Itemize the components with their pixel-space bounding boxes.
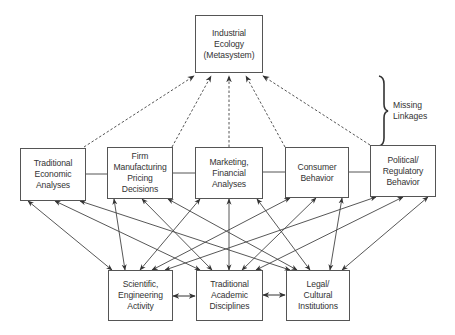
middle-bottom-arrows xyxy=(28,197,428,270)
node-traditional-economic-analyses: Traditional Economic Analyses xyxy=(20,148,86,201)
node-firm-manufacturing-pricing: Firm Manufacturing Pricing Decisions xyxy=(107,147,173,199)
node-industrial-ecology: Industrial Ecology (Metasystem) xyxy=(195,15,263,73)
node-consumer-behavior: Consumer Behavior xyxy=(285,147,349,198)
missing-linkages-label: Missing Linkages xyxy=(393,100,427,122)
node-marketing-financial-analyses: Marketing, Financial Analyses xyxy=(195,147,263,199)
brace-icon xyxy=(379,76,388,146)
node-legal-cultural-institutions: Legal/ Cultural Institutions xyxy=(286,270,350,321)
dashed-missing-linkages xyxy=(84,76,370,147)
systems-diagram: Industrial Ecology (Metasystem) Traditio… xyxy=(0,0,455,335)
node-political-regulatory-behavior: Political/ Regulatory Behavior xyxy=(370,145,436,197)
node-scientific-engineering-activity: Scientific, Engineering Activity xyxy=(108,270,173,321)
node-traditional-academic-disciplines: Traditional Academic Disciplines xyxy=(196,270,263,321)
